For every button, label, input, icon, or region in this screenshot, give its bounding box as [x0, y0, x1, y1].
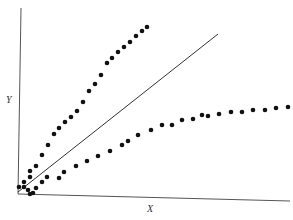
data-point: [52, 132, 57, 137]
data-point: [28, 175, 33, 180]
data-point: [28, 169, 33, 174]
data-point: [134, 34, 139, 39]
data-point: [93, 82, 98, 87]
data-point: [57, 176, 62, 181]
data-point: [240, 110, 245, 115]
data-point: [62, 170, 67, 175]
x-axis: [18, 194, 290, 201]
y-axis-label: Y: [6, 94, 13, 105]
data-point: [17, 185, 22, 190]
data-point: [136, 133, 141, 138]
data-point: [34, 186, 39, 191]
data-point: [145, 25, 150, 30]
data-point: [170, 123, 175, 128]
data-point: [45, 175, 50, 180]
data-points: [17, 25, 291, 197]
data-point: [74, 164, 79, 169]
data-point: [286, 105, 291, 110]
data-point: [217, 112, 222, 117]
data-point: [274, 106, 279, 111]
data-point: [120, 143, 125, 148]
data-point: [85, 159, 90, 164]
data-point: [180, 118, 185, 123]
data-point: [140, 29, 145, 34]
data-point: [263, 108, 268, 113]
data-point: [87, 89, 92, 94]
data-point: [126, 139, 131, 144]
data-point: [75, 109, 80, 114]
x-axis-label: X: [146, 203, 154, 214]
data-point: [31, 191, 36, 196]
data-point: [149, 128, 154, 133]
data-point: [229, 110, 234, 115]
reference-line: [18, 34, 218, 192]
y-axis: [18, 8, 21, 194]
data-point: [191, 117, 196, 122]
data-point: [96, 154, 101, 159]
data-point: [40, 153, 45, 158]
data-point: [116, 50, 121, 55]
data-point: [251, 108, 256, 113]
data-point: [22, 185, 27, 190]
data-point: [122, 45, 127, 50]
data-point: [63, 120, 68, 125]
data-point: [160, 123, 165, 128]
data-point: [34, 164, 39, 169]
data-point: [81, 100, 86, 105]
data-point: [57, 126, 62, 131]
data-point: [22, 180, 27, 185]
data-point: [128, 40, 133, 45]
data-point: [26, 188, 31, 193]
data-point: [69, 115, 74, 120]
data-point: [110, 56, 115, 61]
data-point: [200, 113, 205, 118]
scatter-chart: Y X: [0, 0, 293, 220]
data-point: [108, 149, 113, 154]
data-point: [99, 73, 104, 78]
data-point: [105, 61, 110, 66]
data-point: [46, 143, 51, 148]
data-point: [206, 114, 211, 119]
data-point: [40, 180, 45, 185]
